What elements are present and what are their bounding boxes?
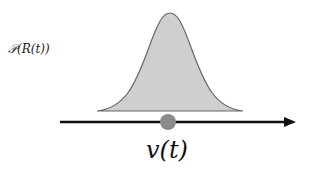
arrow-head-icon — [284, 117, 296, 127]
point-marker — [160, 114, 176, 130]
diagram: 𝒫(R(t)) v(t) — [0, 0, 311, 179]
distribution-label: 𝒫(R(t)) — [8, 42, 50, 56]
variable-label: v(t) — [146, 136, 188, 164]
gaussian-curve — [97, 13, 243, 111]
